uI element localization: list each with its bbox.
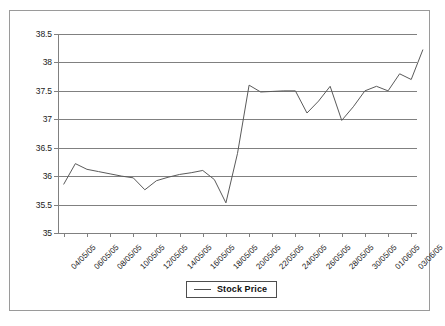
x-axis-tick-label: 26/05/05: [324, 243, 352, 271]
y-axis-tick: [54, 233, 58, 234]
x-axis-tick: [226, 233, 227, 237]
chart-legend: Stock Price: [186, 281, 277, 298]
x-axis-tick-label: 04/05/05: [69, 243, 97, 271]
x-axis-tick-label: 14/05/05: [185, 243, 213, 271]
legend-line-swatch-stock-price: [194, 289, 211, 290]
x-axis-tick-label: 12/05/05: [162, 243, 190, 271]
x-axis-tick-label: 03/06/05: [416, 243, 444, 271]
x-axis-tick: [156, 233, 157, 237]
x-axis-tick: [342, 233, 343, 237]
plot-area: 3535.53636.53737.53838.5 04/05/0506/05/0…: [58, 34, 417, 233]
y-axis-tick-label: 35: [43, 228, 52, 238]
y-axis-tick-label: 36: [43, 171, 52, 181]
series-line-stock-price: [58, 34, 417, 233]
x-axis-tick: [365, 233, 366, 237]
x-axis-tick: [319, 233, 320, 237]
gridline: [58, 233, 417, 234]
x-axis-tick: [295, 233, 296, 237]
x-axis-tick: [180, 233, 181, 237]
y-axis-tick-label: 37: [43, 114, 52, 124]
x-axis-tick: [64, 233, 65, 237]
x-axis-tick: [110, 233, 111, 237]
x-axis-tick: [87, 233, 88, 237]
y-axis-tick-label: 38.5: [36, 29, 52, 39]
y-axis-tick-label: 38: [43, 57, 52, 67]
x-axis-tick: [272, 233, 273, 237]
x-axis-tick-label: 24/05/05: [301, 243, 329, 271]
x-axis-tick: [133, 233, 134, 237]
x-axis-tick: [411, 233, 412, 237]
x-axis-tick: [203, 233, 204, 237]
chart-frame: 3535.53636.53737.53838.5 04/05/0506/05/0…: [9, 10, 430, 311]
x-axis-tick: [249, 233, 250, 237]
y-axis-tick-label: 35.5: [36, 200, 52, 210]
y-axis-tick-label: 37.5: [36, 86, 52, 96]
legend-label-stock-price: Stock Price: [217, 284, 267, 294]
y-axis-tick-label: 36.5: [36, 143, 52, 153]
x-axis-tick: [388, 233, 389, 237]
